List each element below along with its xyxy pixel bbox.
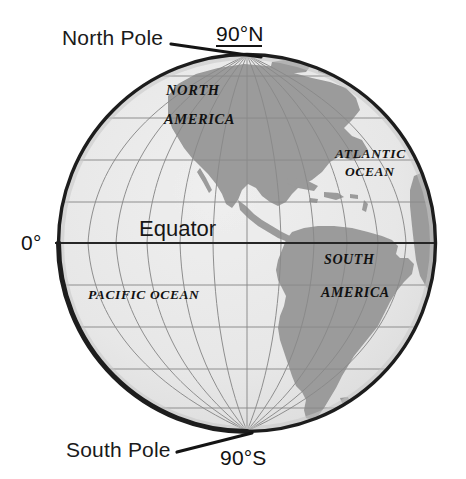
equator-coordinate-label: 0° [21, 231, 41, 255]
north-america-label-line1: NORTH [166, 82, 220, 99]
atlantic-ocean-label-line1: ATLANTIC [335, 146, 406, 162]
north-pole-label: North Pole [62, 26, 163, 50]
pacific-ocean-label: PACIFIC OCEAN [88, 287, 199, 303]
europe-west-edge-shape [412, 110, 438, 160]
greenland-shape [352, 56, 402, 92]
south-america-label-line2: AMERICA [321, 285, 390, 301]
south-pole-label: South Pole [66, 438, 171, 462]
globe-diagram-figure: North Pole 90°N South Pole 90°S 0° Equat… [0, 0, 466, 479]
globe-illustration [0, 0, 466, 479]
equator-label: Equator [139, 216, 216, 242]
atlantic-ocean-label-line2: OCEAN [345, 164, 395, 180]
north-pole-coordinate-label: 90°N [216, 22, 264, 46]
south-america-label-line1: SOUTH [324, 252, 374, 268]
south-pole-coordinate-label: 90°S [220, 446, 267, 470]
north-america-label-line2: AMERICA [164, 111, 235, 128]
